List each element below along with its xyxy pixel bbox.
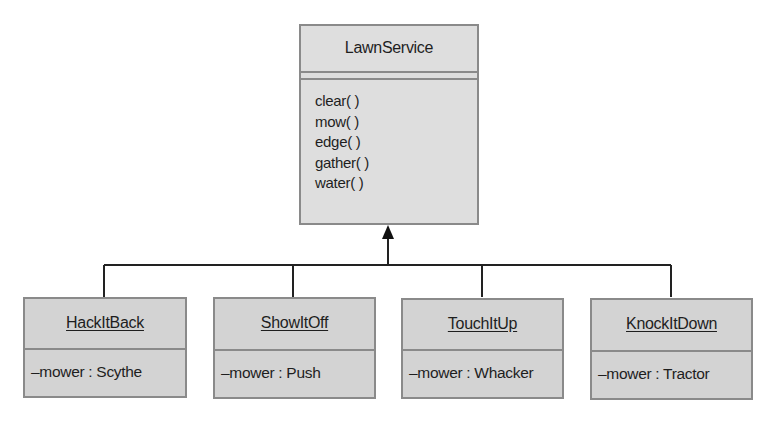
name-divider (403, 349, 562, 351)
object-name: ShowItOff (215, 314, 374, 332)
operation-gather: gather( ) (315, 153, 369, 174)
operation-edge: edge( ) (315, 132, 369, 153)
object-hackitback: HackItBack –mower : Scythe (23, 297, 187, 398)
name-divider (301, 71, 477, 73)
object-showitoff: ShowItOff –mower : Push (213, 297, 376, 399)
object-knockitdown: KnockItDown –mower : Tractor (590, 298, 753, 400)
operations-list: clear( ) mow( ) edge( ) gather( ) water(… (315, 91, 369, 194)
attribute-mower: –mower : Tractor (598, 365, 709, 383)
operation-mow: mow( ) (315, 112, 369, 133)
object-name: HackItBack (25, 314, 185, 332)
object-name: TouchItUp (403, 315, 562, 333)
attribute-mower: –mower : Push (221, 364, 320, 382)
class-lawnservice: LawnService clear( ) mow( ) edge( ) gath… (299, 24, 479, 225)
generalization-arrowhead (382, 225, 394, 239)
object-touchitup: TouchItUp –mower : Whacker (401, 298, 564, 399)
attributes-divider (301, 78, 477, 80)
operation-water: water( ) (315, 173, 369, 194)
object-name: KnockItDown (592, 315, 751, 333)
attribute-mower: –mower : Scythe (31, 363, 142, 381)
attribute-mower: –mower : Whacker (409, 364, 533, 382)
name-divider (592, 350, 751, 352)
name-divider (25, 348, 185, 350)
name-divider (215, 349, 374, 351)
operation-clear: clear( ) (315, 91, 369, 112)
class-name: LawnService (301, 39, 477, 57)
